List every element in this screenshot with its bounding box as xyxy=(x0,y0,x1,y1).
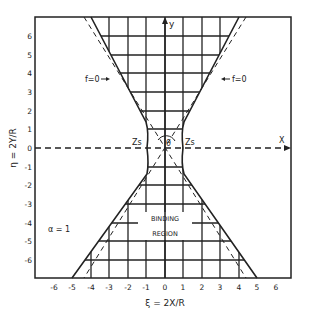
x-axis-title: ξ = 2X/R xyxy=(145,298,184,308)
svg-text:-1: -1 xyxy=(25,163,33,172)
svg-text:-3: -3 xyxy=(25,200,33,209)
saddle-label-right: Zs xyxy=(185,138,195,147)
svg-text:-5: -5 xyxy=(68,283,76,292)
svg-text:-4: -4 xyxy=(25,219,33,228)
region-label-line2: REGION xyxy=(152,230,178,238)
svg-text:-1: -1 xyxy=(142,283,150,292)
svg-text:5: 5 xyxy=(27,51,32,60)
svg-text:0: 0 xyxy=(163,283,168,292)
y-axis-arrow-label: y xyxy=(169,19,175,29)
svg-text:0: 0 xyxy=(27,144,32,153)
svg-text:6: 6 xyxy=(27,32,32,41)
region-label-line1: BINDING xyxy=(151,215,179,223)
svg-text:3: 3 xyxy=(218,283,223,292)
svg-text:-2: -2 xyxy=(124,283,132,292)
alpha-label: α = 1 xyxy=(48,225,70,234)
svg-text:-4: -4 xyxy=(87,283,95,292)
svg-text:1: 1 xyxy=(27,125,32,134)
f0-arrowhead-right-icon xyxy=(221,77,225,81)
svg-text:4: 4 xyxy=(27,69,32,78)
y-tick-labels: 6 5 4 3 2 1 0 -1 -2 -3 -4 -5 -6 xyxy=(25,32,33,265)
svg-text:5: 5 xyxy=(255,283,260,292)
f0-arrowhead-left-icon xyxy=(106,77,110,81)
x-axis-arrow-icon xyxy=(284,145,291,151)
y-axis-title: η = 2Y/R xyxy=(8,128,18,167)
binding-region-diagram: y X θ Zs Zs f=0 f=0 BINDING REGION α = 1… xyxy=(0,0,309,316)
svg-text:6: 6 xyxy=(274,283,279,292)
svg-text:3: 3 xyxy=(27,88,32,97)
theta-label: θ xyxy=(166,139,171,148)
svg-text:4: 4 xyxy=(237,283,242,292)
svg-text:-5: -5 xyxy=(25,237,33,246)
svg-text:-6: -6 xyxy=(25,256,33,265)
svg-text:2: 2 xyxy=(27,107,32,116)
x-tick-labels: -6 -5 -4 -3 -2 -1 0 1 2 3 4 5 6 xyxy=(50,283,278,292)
svg-text:-2: -2 xyxy=(25,181,33,190)
svg-text:2: 2 xyxy=(200,283,205,292)
f0-label-right: f=0 xyxy=(232,75,247,84)
svg-text:-6: -6 xyxy=(50,283,58,292)
svg-text:-3: -3 xyxy=(105,283,113,292)
y-axis-arrow-icon xyxy=(162,17,168,24)
f0-label-left: f=0 xyxy=(85,75,100,84)
svg-text:1: 1 xyxy=(181,283,186,292)
saddle-label-left: Zs xyxy=(132,138,142,147)
x-axis-arrow-label: X xyxy=(279,136,285,145)
